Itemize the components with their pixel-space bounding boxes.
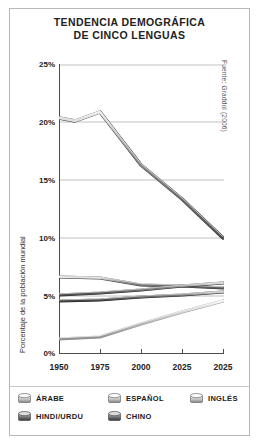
cylinder-swatch-icon <box>108 393 121 404</box>
series-line-hindi-urdu <box>59 300 223 339</box>
x-axis-ticks <box>60 349 224 353</box>
x-tick-label-2: 2000 <box>121 362 161 372</box>
legend-item-arabe[interactable]: ÁRABE <box>18 393 64 404</box>
x-tick-label-1: 1975 <box>80 362 120 372</box>
y-tick-label-15: 15% <box>29 177 55 185</box>
y-tick-label-10: 10% <box>29 235 55 243</box>
chart-title-line-1: TENDENCIA DEMOGRÁFICA <box>0 16 259 29</box>
y-tick-label-0: 0% <box>29 350 55 358</box>
cylinder-swatch-icon <box>108 411 121 422</box>
cylinder-swatch-icon <box>18 411 31 422</box>
x-tick-label-4: 2025 <box>203 362 243 372</box>
legend-label-chino: CHINO <box>126 412 152 421</box>
legend-divider <box>10 386 249 387</box>
gridlines <box>59 65 224 296</box>
cylinder-swatch-icon <box>18 393 31 404</box>
series-line-chino <box>59 111 223 238</box>
axis-lines <box>59 64 224 354</box>
x-tick-label-0: 1950 <box>39 362 79 372</box>
chart-title-line-2: DE CINCO LENGUAS <box>0 29 259 42</box>
cylinder-swatch-icon <box>190 393 203 404</box>
legend-label-ingles: INGLÉS <box>208 394 238 403</box>
y-tick-label-25: 25% <box>29 61 55 69</box>
legend-item-chino[interactable]: CHINO <box>108 411 152 422</box>
legend-item-espanol[interactable]: ESPAÑOL <box>108 393 164 404</box>
y-tick-label-20: 20% <box>29 119 55 127</box>
y-axis-title: Porcentaje de la población mundial <box>18 53 27 353</box>
x-tick-label-3: 2025 <box>162 362 202 372</box>
chart-figure: TENDENCIA DEMOGRÁFICA DE CINCO LENGUAS F… <box>0 0 259 445</box>
legend-label-espanol: ESPAÑOL <box>126 394 164 403</box>
y-tick-label-5: 5% <box>29 293 55 301</box>
plot-area <box>59 64 224 354</box>
legend-label-hindi-urdu: HINDI/URDU <box>36 412 83 421</box>
legend-item-hindi-urdu[interactable]: HINDI/URDU <box>18 411 83 422</box>
legend-label-arabe: ÁRABE <box>36 394 64 403</box>
chart-legend: ÁRABE ESPAÑOL INGLÉS HIN <box>14 392 246 432</box>
plot-svg <box>59 64 224 359</box>
chart-title: TENDENCIA DEMOGRÁFICA DE CINCO LENGUAS <box>0 16 259 42</box>
legend-item-ingles[interactable]: INGLÉS <box>190 393 238 404</box>
